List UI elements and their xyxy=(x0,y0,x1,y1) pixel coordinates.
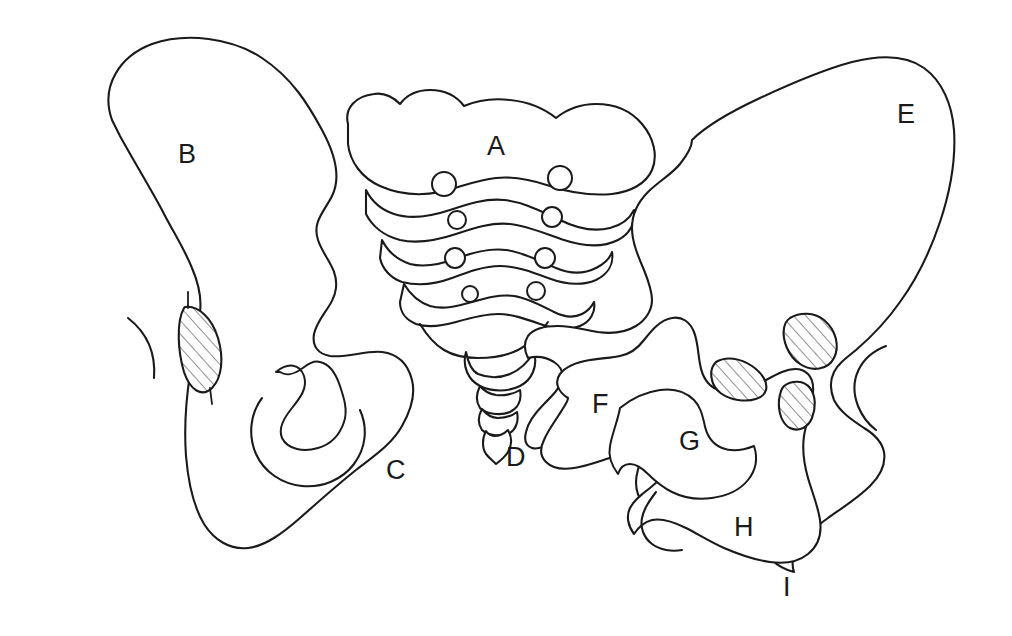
right-lower-joint-hatch xyxy=(779,382,815,430)
sacrum-segment-s3 xyxy=(380,240,612,284)
label-g: G xyxy=(679,428,700,455)
label-b: B xyxy=(178,141,196,168)
label-h: H xyxy=(734,514,754,541)
sacral-foramen-l1 xyxy=(432,172,456,196)
right-femoral-head-arc xyxy=(854,346,886,430)
label-d: D xyxy=(506,444,526,471)
pelvis-line-drawing xyxy=(0,0,1012,636)
label-c: C xyxy=(386,457,406,484)
sacral-foramen-l2 xyxy=(448,211,466,229)
left-femoral-head-arc xyxy=(128,318,154,378)
label-i: I xyxy=(783,574,791,601)
sacrum-segment-s4 xyxy=(400,284,594,329)
sacral-foramen-r1 xyxy=(548,166,572,190)
diagram-canvas: A B C D E F G H I xyxy=(0,0,1012,636)
label-f: F xyxy=(592,391,609,418)
sacral-foramen-l3 xyxy=(445,248,465,268)
label-a: A xyxy=(487,133,505,160)
sacral-foramen-r4 xyxy=(527,282,545,300)
sacral-foramen-r2 xyxy=(542,207,562,227)
sacrum-segment-s2 xyxy=(366,190,634,245)
sacral-foramen-l4 xyxy=(462,286,478,302)
sacral-foramen-r3 xyxy=(535,248,555,268)
label-e: E xyxy=(897,101,915,128)
